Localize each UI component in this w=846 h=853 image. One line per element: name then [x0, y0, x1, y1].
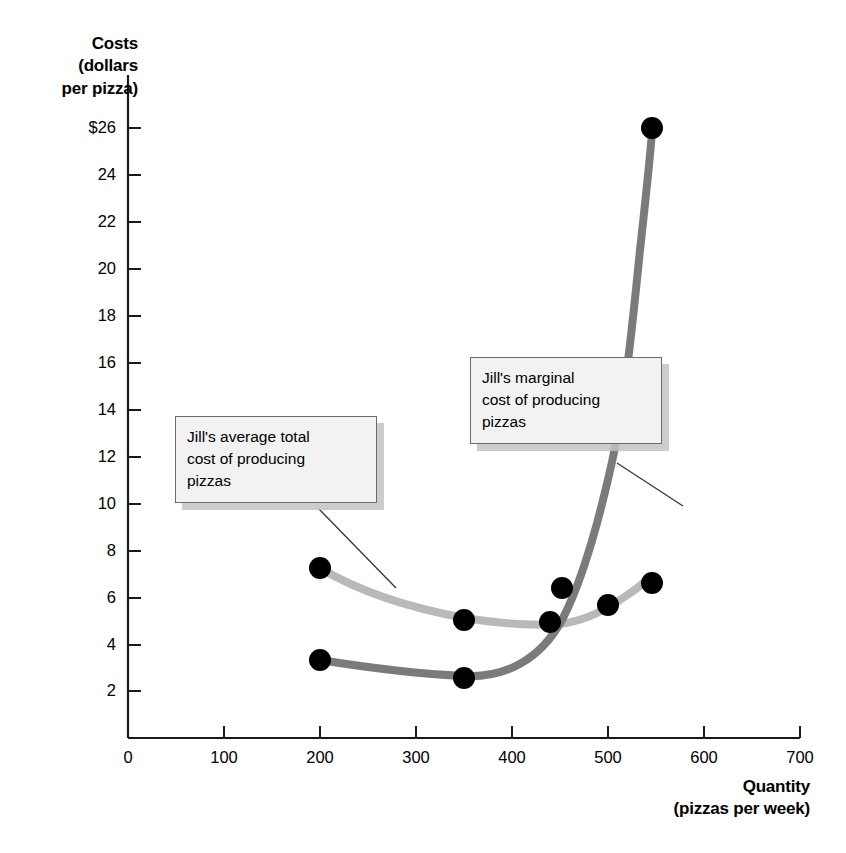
y-tick-label-10: 10: [56, 494, 116, 513]
x-axis-title: Quantity (pizzas per week): [545, 776, 810, 821]
annotation-mc-callout: Jill's marginal cost of producing pizzas: [470, 357, 662, 444]
y-tick-label-4: 4: [56, 635, 116, 654]
x-axis-ticks: [128, 726, 800, 738]
x-tick-label-200: 200: [290, 748, 350, 767]
x-tick-label-400: 400: [482, 748, 542, 767]
data-point: [551, 577, 573, 599]
y-tick-label-24: 24: [56, 165, 116, 184]
mc-callout-leader-line: [617, 463, 683, 506]
y-tick-label-8: 8: [56, 541, 116, 560]
x-tick-label-500: 500: [578, 748, 638, 767]
data-point: [597, 594, 619, 616]
y-tick-label-2: 2: [56, 681, 116, 700]
cost-curves-chart: Costs (dollars per pizza) Quantity (pizz…: [0, 0, 846, 853]
y-tick-label-6: 6: [56, 588, 116, 607]
y-tick-label-18: 18: [56, 306, 116, 325]
data-point: [641, 117, 663, 139]
y-tick-label-12: 12: [56, 447, 116, 466]
data-point: [453, 609, 475, 631]
y-axis-ticks: [128, 128, 141, 691]
chart-plot-area: [0, 0, 846, 853]
data-point: [309, 649, 331, 671]
x-tick-label-600: 600: [674, 748, 734, 767]
y-tick-label-22: 22: [56, 212, 116, 231]
y-tick-label-20: 20: [56, 259, 116, 278]
data-point: [641, 572, 663, 594]
x-tick-label-700: 700: [770, 748, 830, 767]
x-tick-label-100: 100: [194, 748, 254, 767]
y-tick-label-14: 14: [56, 400, 116, 419]
x-tick-label-300: 300: [386, 748, 446, 767]
annotation-atc-callout: Jill's average total cost of producing p…: [175, 416, 377, 503]
data-point: [539, 611, 561, 633]
y-axis-title: Costs (dollars per pizza): [28, 33, 138, 100]
data-point: [309, 557, 331, 579]
data-point: [453, 667, 475, 689]
y-tick-label-26: $26: [56, 118, 116, 137]
y-tick-label-16: 16: [56, 353, 116, 372]
x-tick-label-0: 0: [98, 748, 158, 767]
